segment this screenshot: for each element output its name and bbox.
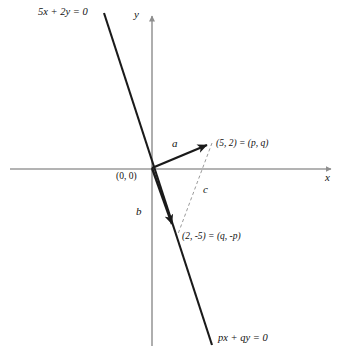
segment-c-label: c <box>203 184 208 195</box>
point-label-p-q: (5, 2) = (p, q) <box>216 139 268 149</box>
label-line-lower-text: px + qy = 0 <box>218 332 268 343</box>
vector-a-label: a <box>172 138 178 149</box>
vector-b-arrow <box>152 168 172 224</box>
point-label-q-minus-p: (2, -5) = (q, -p) <box>182 232 241 242</box>
y-axis-label: y <box>134 9 139 20</box>
vector-b-label: b <box>136 206 142 217</box>
label-line-lower-equation: px + qy = 0 <box>218 333 268 344</box>
origin-label: (0, 0) <box>116 172 137 182</box>
vector-a-arrow <box>152 145 207 168</box>
x-axis-label: x <box>325 172 330 183</box>
label-line-upper-equation: 5x + 2y = 0 <box>38 7 88 18</box>
vector-diagram-canvas <box>0 0 342 356</box>
label-line-upper-text: 5x + 2y = 0 <box>38 6 88 17</box>
